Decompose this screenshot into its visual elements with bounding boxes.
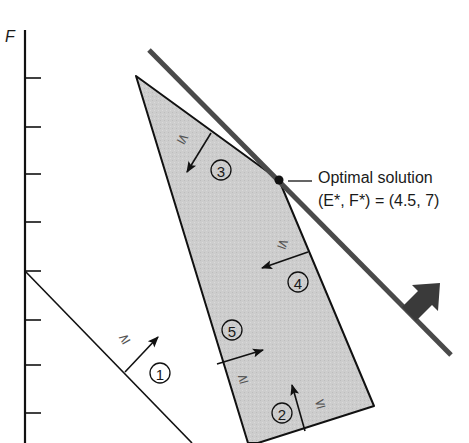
svg-text:5: 5 xyxy=(228,323,236,340)
constraint-1-relation: ≥ xyxy=(115,328,133,348)
svg-text:4: 4 xyxy=(294,275,302,292)
svg-text:1: 1 xyxy=(156,366,164,383)
lp-diagram: F ≥ ≤ ≤ ≤ ≥ 1 2 3 4 5 Optimal solution (… xyxy=(0,0,469,443)
optimal-value: (E*, F*) = (4.5, 7) xyxy=(318,192,439,209)
optimal-title: Optimal solution xyxy=(318,169,433,186)
svg-text:2: 2 xyxy=(278,406,286,423)
axis-label-f: F xyxy=(5,28,16,45)
axis-ticks xyxy=(25,78,41,413)
feasible-region xyxy=(136,76,374,443)
svg-text:3: 3 xyxy=(217,163,225,180)
objective-direction-arrow-icon xyxy=(402,283,440,321)
constraint-1-number: 1 xyxy=(150,363,170,383)
f-axis xyxy=(25,30,41,443)
constraint-1-line xyxy=(25,271,192,443)
optimal-point xyxy=(275,176,284,185)
